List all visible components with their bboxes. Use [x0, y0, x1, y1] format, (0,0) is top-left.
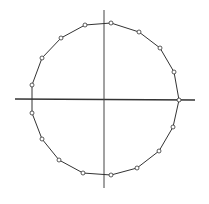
- vertex-marker: [135, 166, 139, 170]
- vertex-marker: [172, 70, 176, 74]
- vertex-marker: [40, 137, 44, 141]
- vertex-marker: [109, 173, 113, 177]
- vertex-marker: [171, 125, 175, 129]
- vertex-marker: [177, 98, 181, 102]
- vertex-marker: [30, 111, 34, 115]
- vertex-marker: [81, 171, 85, 175]
- horizontal-axis: [15, 99, 195, 100]
- polygon-diagram: [0, 0, 209, 204]
- vertex-marker: [40, 56, 44, 60]
- vertex-marker: [57, 158, 61, 162]
- vertex-marker: [158, 46, 162, 50]
- vertex-marker: [83, 23, 87, 27]
- vertex-marker: [30, 83, 34, 87]
- vertex-marker: [137, 30, 141, 34]
- vertex-marker: [109, 21, 113, 25]
- vertex-marker: [157, 149, 161, 153]
- vertex-marker: [59, 36, 63, 40]
